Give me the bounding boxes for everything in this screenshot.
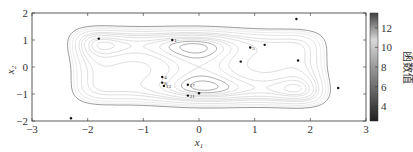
- x-tick-label: −2: [82, 123, 94, 135]
- data-point: [240, 60, 242, 62]
- y-tick-label: −1: [16, 88, 28, 100]
- y-tick-label: 1: [23, 34, 29, 46]
- colorbar-tick-label: 8: [381, 61, 387, 73]
- data-point: [187, 84, 189, 86]
- point-label: 5: [252, 46, 255, 51]
- data-point: [297, 59, 299, 61]
- data-point: [295, 18, 297, 20]
- x-tick-label: 3: [363, 123, 369, 135]
- point-label: 17: [190, 83, 196, 88]
- point-label: 21: [190, 94, 196, 99]
- contour-chart: −3−2−10123 −2−1012 x1 x2 1548131721 4681…: [0, 0, 413, 152]
- data-point: [161, 81, 163, 83]
- colorbar-label: 函数值: [401, 51, 413, 84]
- data-point: [249, 46, 251, 48]
- colorbar-tick-label: 12: [381, 22, 392, 34]
- data-point: [187, 94, 189, 96]
- y-tick-label: 2: [23, 7, 29, 19]
- data-point: [198, 92, 200, 94]
- y-axis: −2−1012: [16, 7, 366, 127]
- x-tick-label: 2: [308, 123, 314, 135]
- y-tick-label: 0: [23, 61, 29, 73]
- colorbar-tick-label: 4: [381, 100, 387, 112]
- data-point: [263, 44, 265, 46]
- point-label: 4: [164, 75, 167, 80]
- y-tick-label: −2: [16, 115, 28, 127]
- x-tick-label: 0: [196, 123, 202, 135]
- data-point: [161, 76, 163, 78]
- data-point: [70, 117, 72, 119]
- data-point: [337, 87, 339, 89]
- data-point: [171, 39, 173, 41]
- contour-level: [97, 40, 301, 94]
- x-axis-label: x1: [194, 136, 203, 150]
- point-label: 13: [166, 84, 172, 89]
- data-point: [98, 37, 100, 39]
- y-axis-label: x2: [4, 65, 18, 75]
- x-tick-label: −1: [137, 123, 149, 135]
- data-point: [163, 85, 165, 87]
- colorbar-tick-label: 6: [381, 81, 387, 93]
- contour-lines: [68, 26, 331, 109]
- x-tick-label: 1: [252, 123, 258, 135]
- colorbar-tick-label: 10: [381, 41, 393, 53]
